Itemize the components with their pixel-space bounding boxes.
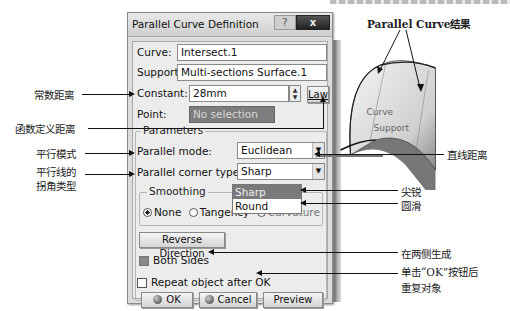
arrow-icon — [300, 187, 306, 193]
arrow-icon — [129, 150, 135, 156]
svg-text:Curve: Curve — [367, 107, 394, 117]
annotation-round: 圆滑 — [401, 198, 421, 213]
ok-icon — [153, 295, 162, 304]
dialog-title: Parallel Curve Definition — [132, 18, 259, 30]
parallel-mode-value: Euclidean — [241, 144, 292, 156]
parallel-mode-select[interactable]: Euclidean ▼ — [237, 142, 325, 159]
both-sides-checkbox[interactable] — [139, 256, 149, 266]
leader-line — [306, 190, 398, 191]
ok-button[interactable]: OK — [141, 292, 193, 308]
annotation-parallel-mode: 平行模式 — [36, 146, 76, 161]
constant-label: Constant: — [137, 87, 188, 99]
leader-line — [323, 100, 324, 128]
radio-icon[interactable] — [189, 208, 198, 217]
constant-field[interactable]: 28mm — [189, 85, 289, 102]
dialog-content: Curve: Intersect.1 Support: Multi-sectio… — [132, 41, 328, 299]
leader-line — [214, 252, 398, 253]
parallel-mode-label: Parallel mode: — [137, 145, 212, 157]
curve-field[interactable]: Intersect.1 — [177, 44, 327, 61]
parameters-title: Parameters — [141, 124, 205, 136]
corner-type-value: Sharp — [241, 165, 272, 177]
annotation-both-sides: 在两侧生成 — [401, 246, 451, 261]
corner-type-dropdown[interactable] — [316, 155, 383, 157]
preview-button[interactable]: Preview — [263, 292, 323, 308]
constant-spinner[interactable]: ▲ ▼ — [289, 85, 301, 102]
close-button[interactable]: x — [296, 15, 330, 30]
support-field[interactable]: Multi-sections Surface.1 — [177, 64, 327, 81]
title-bar[interactable]: Parallel Curve Definition ? x — [128, 13, 332, 37]
curve-label: Curve: — [137, 46, 172, 58]
dropdown-option-round[interactable]: Round — [233, 199, 301, 213]
annotation-sharp: 尖锐 — [401, 184, 421, 199]
reverse-direction-button[interactable]: Reverse Direction — [139, 232, 225, 248]
arrow-icon — [320, 96, 326, 102]
top-border-decoration — [330, 0, 510, 4]
smoothing-title: Smoothing — [147, 185, 208, 197]
corner-type-select[interactable]: Sharp ▼ — [237, 163, 325, 180]
cancel-button[interactable]: Cancel — [199, 292, 257, 308]
leader-line — [82, 94, 130, 95]
arrow-icon — [208, 249, 214, 255]
annotation-repeat-2: 重复对象 — [401, 280, 441, 295]
annotation-constant-distance: 常数距离 — [34, 87, 74, 102]
spin-up-icon[interactable]: ▲ — [290, 86, 300, 93]
arrow-icon — [314, 151, 320, 157]
arrow-icon — [129, 91, 135, 97]
annotation-corner-type-2: 拐角类型 — [36, 178, 76, 193]
leader-line — [85, 174, 130, 175]
spin-down-icon[interactable]: ▼ — [290, 93, 300, 100]
result-arrows — [370, 28, 440, 93]
annotation-law-distance: 函数定义距离 — [15, 121, 75, 136]
corner-type-dropdown-list[interactable]: Sharp Round — [232, 184, 302, 214]
smoothing-none-radio[interactable]: None — [143, 206, 181, 218]
svg-text:Support: Support — [374, 123, 410, 133]
point-label: Point: — [137, 108, 167, 120]
annotation-corner-type-1: 平行线的 — [36, 164, 76, 179]
help-button[interactable]: ? — [274, 15, 296, 30]
arrow-icon — [300, 200, 306, 206]
leader-line — [306, 203, 398, 204]
repeat-object-checkbox[interactable] — [137, 278, 147, 288]
leader-line — [88, 128, 324, 129]
support-label: Support: — [137, 66, 182, 78]
both-sides-label: Both Sides — [153, 254, 209, 266]
parallel-curve-dialog: Parallel Curve Definition ? x Curve: Int… — [127, 12, 333, 304]
leader-line — [262, 273, 398, 274]
corner-type-label: Parallel corner type: — [137, 166, 243, 178]
repeat-object-label: Repeat object after OK — [151, 276, 270, 288]
annotation-repeat-1: 单击“OK”按钮后 — [401, 264, 478, 279]
cancel-icon — [205, 295, 214, 304]
leader-line — [85, 153, 130, 154]
leader-line — [320, 154, 444, 155]
radio-selected-icon[interactable] — [143, 208, 152, 217]
arrow-icon — [256, 270, 262, 276]
point-field[interactable]: No selection — [189, 106, 275, 123]
arrow-icon — [129, 171, 135, 177]
annotation-straight-distance: 直线距离 — [447, 147, 487, 162]
dropdown-option-sharp[interactable]: Sharp — [233, 185, 301, 199]
chevron-down-icon[interactable]: ▼ — [312, 164, 324, 179]
